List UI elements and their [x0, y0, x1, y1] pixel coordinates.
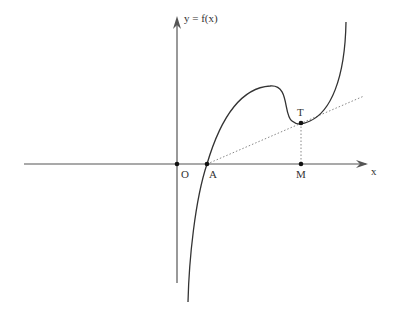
- point-a: [205, 162, 210, 167]
- tangent-line: [207, 96, 364, 164]
- point-t: [299, 121, 304, 126]
- x-axis-label: x: [371, 165, 377, 177]
- label-t: T: [297, 106, 304, 118]
- x-axis: [24, 160, 368, 168]
- point-origin: [175, 162, 180, 167]
- function-curve: [188, 22, 346, 302]
- y-axis: [173, 16, 181, 283]
- label-a: A: [209, 168, 217, 180]
- label-m: M: [296, 168, 306, 180]
- label-origin: O: [181, 168, 189, 180]
- point-m: [299, 162, 304, 167]
- y-axis-label: y = f(x): [184, 12, 218, 25]
- function-diagram: y = f(x) x O A M T: [0, 0, 399, 313]
